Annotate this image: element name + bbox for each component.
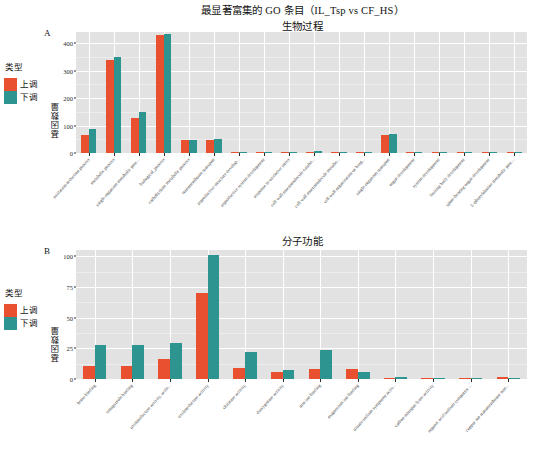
y-axis-tick-mark — [74, 98, 77, 99]
x-axis-tick-mark — [320, 379, 321, 382]
bar — [432, 152, 440, 153]
bar — [239, 152, 247, 153]
bar — [121, 366, 133, 380]
x-axis-tick-mark — [314, 153, 315, 156]
gridline-vertical — [264, 32, 265, 153]
panel-b-subtitle: 分子功能 — [0, 233, 535, 248]
y-axis-tick-mark — [74, 256, 77, 257]
x-axis-tick-label: iron ion binding — [298, 383, 322, 409]
x-axis-tick-label: oxidoreductase activity, actin... — [129, 383, 172, 430]
panel-a-plot-background: 0100200300400oxidation-reduction process… — [76, 32, 527, 153]
bar — [346, 369, 358, 379]
gridline-vertical — [514, 32, 515, 153]
bar — [320, 350, 332, 379]
x-axis-tick-mark — [89, 153, 90, 156]
legend-swatch-down-icon — [4, 317, 17, 330]
gridline-minor — [76, 333, 527, 334]
panel-a-legend: 类型 上调 下调 — [4, 60, 50, 104]
bar — [497, 377, 509, 379]
gridline-vertical — [395, 250, 396, 379]
x-axis-tick-mark — [245, 379, 246, 382]
bar — [196, 293, 208, 379]
bar — [114, 57, 122, 153]
gridline-vertical — [364, 32, 365, 153]
bar — [389, 134, 397, 153]
x-axis-tick-label: dioxygenase activity — [255, 383, 285, 415]
gridline-major — [76, 43, 527, 44]
y-axis-tick-mark — [74, 125, 77, 126]
bar — [83, 366, 95, 380]
bar — [231, 152, 239, 153]
legend-swatch-up-icon — [4, 78, 17, 91]
y-axis-tick-mark — [74, 43, 77, 44]
x-axis-tick-label: metabolic process — [89, 157, 115, 186]
legend-item-down[interactable]: 下调 — [4, 317, 50, 330]
gridline-minor — [76, 272, 527, 273]
bar — [81, 135, 89, 153]
gridline-major — [76, 71, 527, 72]
x-axis-tick-mark — [264, 153, 265, 156]
gridline-vertical — [314, 32, 315, 153]
bar — [164, 34, 172, 153]
gridline-major — [76, 287, 527, 288]
gridline-vertical — [489, 32, 490, 153]
x-axis-tick-label: reproductive system development — [219, 157, 265, 208]
gridline-vertical — [339, 32, 340, 153]
x-axis-tick-mark — [464, 153, 465, 156]
bar — [139, 112, 147, 153]
panel-b-letter: B — [44, 246, 50, 256]
gridline-major — [76, 98, 527, 99]
gridline-vertical — [283, 250, 284, 379]
x-axis-tick-label: organic acid:sodium symporter ... — [426, 383, 472, 433]
x-axis-tick-mark — [489, 153, 490, 156]
gridline-minor — [76, 84, 527, 85]
x-axis-tick-mark — [433, 379, 434, 382]
x-axis-tick-label: magnesium ion binding — [326, 383, 359, 419]
panel-a: A 类型 上调 下调 基因数量 0100200300400oxidation-r… — [0, 16, 535, 230]
bar — [170, 343, 182, 379]
x-axis-tick-label: L-phenylalanine metabolic proc... — [470, 157, 516, 208]
legend-item-up[interactable]: 上调 — [4, 78, 50, 91]
x-axis-tick-mark — [208, 379, 209, 382]
bar — [464, 152, 472, 153]
y-axis-tick-mark — [74, 379, 77, 380]
panel-a-plot-area: 0100200300400oxidation-reduction process… — [76, 32, 527, 153]
x-axis-tick-mark — [289, 153, 290, 156]
bar — [459, 378, 471, 379]
x-axis-tick-label: reproductive structure develop... — [196, 157, 241, 206]
gridline-minor — [76, 57, 527, 58]
x-axis-tick-label: biological_process — [138, 157, 165, 187]
bar — [384, 378, 396, 379]
bar — [358, 372, 370, 379]
bar — [507, 152, 515, 153]
gridline-vertical — [358, 250, 359, 379]
x-axis-tick-mark — [95, 379, 96, 382]
legend-item-down[interactable]: 下调 — [4, 91, 50, 104]
bar — [395, 377, 407, 379]
panel-b-title: 分子功能 — [0, 232, 535, 248]
y-axis-tick-mark — [74, 286, 77, 287]
bar — [489, 152, 497, 153]
gridline-major — [76, 379, 527, 380]
bar — [281, 152, 289, 153]
bar — [132, 345, 144, 379]
legend-swatch-up-icon — [4, 304, 17, 317]
x-axis-tick-label: heme binding — [76, 383, 97, 405]
bar — [364, 152, 372, 153]
x-axis-tick-mark — [283, 379, 284, 382]
gridline-vertical — [433, 250, 434, 379]
x-axis-tick-mark — [170, 379, 171, 382]
gridline-vertical — [289, 32, 290, 153]
legend-label-down: 下调 — [20, 317, 38, 330]
legend-label-up: 上调 — [20, 78, 38, 91]
legend-title: 类型 — [4, 286, 50, 298]
gridline-vertical — [508, 250, 509, 379]
bar — [289, 152, 297, 153]
x-axis-tick-label: chitinase activity — [222, 383, 247, 410]
bar — [381, 135, 389, 153]
legend-item-up[interactable]: 上调 — [4, 304, 50, 317]
x-axis-tick-label: copper ion transmembrane tran... — [464, 383, 509, 433]
gridline-vertical — [214, 32, 215, 153]
gridline-vertical — [439, 32, 440, 153]
bar — [181, 140, 189, 153]
